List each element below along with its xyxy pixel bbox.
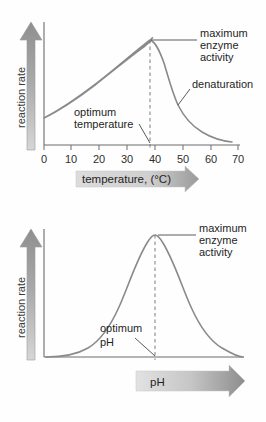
temperature-chart-ylabel: reaction rate [15, 67, 27, 128]
tick-label-70: 70 [232, 153, 244, 165]
temperature-chart-figure: reaction rate 0 10 20 30 40 50 60 70 [0, 0, 266, 205]
annotation-optimum-line2: temperature [74, 118, 133, 130]
annotation-optimum-line1: optimum [74, 106, 116, 118]
tick-label-20: 20 [93, 153, 105, 165]
ph-chart-figure: reaction rate maximum enzyme activity op… [0, 205, 266, 422]
annotation-optimum-line1: optimum [100, 322, 142, 334]
tick-label-30: 30 [121, 153, 133, 165]
tick-label-0: 0 [41, 153, 47, 165]
tick-label-10: 10 [65, 153, 77, 165]
ph-chart-svg: reaction rate maximum enzyme activity op… [0, 205, 266, 422]
optimum-temperature-leader-line [139, 124, 150, 143]
annotation-optimum-line2: pH [100, 336, 114, 348]
tick-label-60: 60 [205, 153, 217, 165]
annotation-maximum-line1: maximum [199, 222, 247, 234]
tick-label-50: 50 [177, 153, 189, 165]
annotation-maximum-line1: maximum [200, 27, 248, 39]
tick-label-40: 40 [149, 153, 161, 165]
temperature-chart-svg: reaction rate 0 10 20 30 40 50 60 70 [0, 0, 266, 205]
optimum-ph-leader-line [135, 338, 155, 356]
ph-chart-xlabel: pH [150, 376, 165, 388]
denaturation-leader-line [178, 89, 190, 105]
ph-chart-ylabel: reaction rate [15, 277, 27, 338]
annotation-maximum-line3: activity [200, 51, 234, 63]
annotation-maximum-line3: activity [199, 246, 233, 258]
temperature-chart-xticks [44, 145, 238, 150]
temperature-chart-xlabel: temperature, (°C) [82, 173, 171, 185]
annotation-maximum-line2: enzyme [199, 234, 238, 246]
annotation-denaturation: denaturation [192, 78, 253, 90]
annotation-maximum-line2: enzyme [200, 39, 239, 51]
